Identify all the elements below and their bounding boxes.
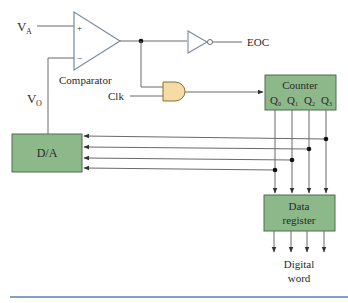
vo-subscript: O (36, 99, 42, 108)
dac-bit1-wire (84, 158, 292, 160)
data-register-block: Data register (264, 195, 335, 231)
dac-input-bus (84, 136, 326, 170)
q0-label: Q (270, 94, 278, 106)
q3-label: Q (321, 94, 329, 106)
minus-sign: − (77, 53, 82, 63)
va-input: V A (17, 19, 74, 36)
junction-dot (273, 168, 278, 173)
dac-bit0-wire (84, 168, 275, 170)
dac-bit3-wire (84, 136, 326, 139)
clk-label: Clk (108, 90, 124, 102)
counter-title: Counter (282, 79, 318, 91)
junction-dot (324, 137, 329, 142)
va-subscript: A (26, 27, 32, 36)
q1-subscript: 1 (295, 101, 298, 107)
inverter-icon (188, 31, 207, 53)
q0-subscript: 0 (278, 101, 281, 107)
counter-output-bus (275, 110, 326, 193)
junction-dot (307, 147, 312, 152)
dac-title: D/A (37, 146, 58, 160)
data-register-line1: Data (289, 200, 310, 212)
vo-wire (48, 58, 74, 135)
vo-feedback: V O (27, 58, 74, 135)
digital-word-line2: word (288, 272, 311, 284)
q2-label: Q (304, 94, 312, 106)
q1-label: Q (287, 94, 295, 106)
digital-word-line1: Digital (284, 258, 315, 270)
plus-sign: + (77, 23, 82, 33)
q3-subscript: 3 (329, 101, 332, 107)
q2-subscript: 2 (312, 101, 315, 107)
comparator-label: Comparator (59, 74, 112, 86)
comparator: + − Comparator (59, 12, 120, 86)
adc-diagram: V A + − Comparator V O EOC Clk Counter Q… (0, 0, 348, 303)
digital-output-bus (274, 231, 324, 252)
and-gate-icon (163, 82, 185, 101)
eoc-label: EOC (247, 36, 269, 48)
inverter: EOC (188, 31, 269, 53)
counter-block: Counter Q 0 Q 1 Q 2 Q 3 (265, 75, 336, 110)
dac-block: D/A (12, 134, 82, 172)
data-register-line2: register (283, 214, 316, 226)
junction-dot (290, 158, 295, 163)
inverter-bubble-icon (208, 40, 213, 45)
comparator-to-and-wire (141, 41, 163, 87)
